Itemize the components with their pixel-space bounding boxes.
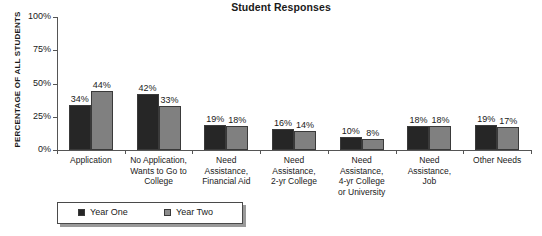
x-axis-category-label: NeedAssistance,4-yr Collegeor University (324, 155, 400, 197)
bar-value-label: 18% (407, 115, 429, 125)
bar-value-label: 8% (362, 128, 384, 138)
category-label-line: Need (188, 155, 264, 166)
y-axis-tick-label: 25% (33, 111, 51, 121)
x-axis-line (57, 150, 531, 151)
x-axis-tick-mark (531, 150, 532, 154)
bar-year-one (272, 129, 294, 150)
y-axis-tick-label: 100% (28, 11, 51, 21)
legend-swatch-year-one (78, 209, 85, 216)
x-axis-tick-mark (396, 150, 397, 154)
bar-value-label: 19% (204, 114, 226, 124)
category-label-line: Assistance, (188, 166, 264, 177)
legend-label-year-one: Year One (90, 207, 128, 217)
legend-item-year-one: Year One (78, 207, 128, 217)
x-axis-category-label: No Application,Wants to Go toCollege (121, 155, 197, 187)
bar-value-label: 42% (137, 83, 159, 93)
y-axis-tick-mark (53, 50, 57, 51)
x-axis-tick-mark (125, 150, 126, 154)
category-label-line: Need (324, 155, 400, 166)
bar-year-two (362, 139, 384, 150)
bar-value-label: 44% (91, 80, 113, 90)
plot-area: 0%25%50%75%100% 34%44%42%33%19%18%16%14%… (57, 17, 531, 150)
student-responses-bar-chart: Student Responses PERCENTAGE OF ALL STUD… (0, 0, 542, 236)
y-axis-tick-mark (53, 84, 57, 85)
y-axis-title: PERCENTAGE OF ALL STUDENTS (13, 5, 22, 155)
bar-value-label: 16% (272, 118, 294, 128)
bar-year-two (294, 131, 316, 150)
category-label-line: Application (53, 155, 129, 166)
category-label-line: 4-yr College (324, 176, 400, 187)
bar-group: 42%33% (137, 17, 181, 150)
x-axis-category-label: Application (53, 155, 129, 166)
bar-value-label: 19% (475, 114, 497, 124)
category-label-line: Assistance, (392, 166, 468, 177)
bar-year-one (407, 126, 429, 150)
legend-swatch-year-two (164, 209, 171, 216)
bar-year-one (475, 125, 497, 150)
x-axis-category-label: NeedAssistance,2-yr College (256, 155, 332, 187)
bar-value-label: 18% (429, 115, 451, 125)
category-label-line: Financial Aid (188, 176, 264, 187)
bar-group: 19%17% (475, 17, 519, 150)
legend-item-year-two: Year Two (164, 207, 213, 217)
bar-year-two (91, 91, 113, 150)
category-label-line: Assistance, (324, 166, 400, 177)
chart-title: Student Responses (0, 1, 542, 13)
y-axis-tick-label: 75% (33, 44, 51, 54)
y-axis-tick-mark (53, 117, 57, 118)
x-axis-category-label: NeedAssistance,Financial Aid (188, 155, 264, 187)
category-label-line: Other Needs (459, 155, 535, 166)
chart-legend: Year One Year Two (57, 202, 243, 224)
category-label-line: Job (392, 176, 468, 187)
category-label-line: No Application, (121, 155, 197, 166)
bar-year-two (159, 106, 181, 150)
category-label-line: Need (256, 155, 332, 166)
category-label-line: Assistance, (256, 166, 332, 177)
category-label-line: or University (324, 187, 400, 198)
bar-value-label: 18% (226, 115, 248, 125)
x-axis-tick-mark (463, 150, 464, 154)
bar-group: 19%18% (204, 17, 248, 150)
y-axis-line (57, 17, 58, 150)
y-axis-tick-mark (53, 17, 57, 18)
bar-year-two (429, 126, 451, 150)
y-axis-tick-label: 50% (33, 78, 51, 88)
bar-year-one (204, 125, 226, 150)
bar-year-two (497, 127, 519, 150)
legend-label-year-two: Year Two (176, 207, 213, 217)
x-axis-tick-mark (260, 150, 261, 154)
bar-value-label: 14% (294, 120, 316, 130)
bar-value-label: 10% (340, 126, 362, 136)
bar-year-one (137, 94, 159, 150)
bar-value-label: 33% (159, 95, 181, 105)
bar-group: 18%18% (407, 17, 451, 150)
category-label-line: College (121, 176, 197, 187)
x-axis-category-label: Other Needs (459, 155, 535, 166)
x-axis-tick-mark (57, 150, 58, 154)
category-label-line: 2-yr College (256, 176, 332, 187)
bar-group: 16%14% (272, 17, 316, 150)
bar-year-one (340, 137, 362, 150)
bar-year-two (226, 126, 248, 150)
x-axis-tick-mark (328, 150, 329, 154)
x-axis-category-label: NeedAssistance,Job (392, 155, 468, 187)
category-label-line: Need (392, 155, 468, 166)
bar-group: 34%44% (69, 17, 113, 150)
bar-year-one (69, 105, 91, 150)
bar-group: 10%8% (340, 17, 384, 150)
bar-value-label: 34% (69, 94, 91, 104)
category-label-line: Wants to Go to (121, 166, 197, 177)
x-axis-tick-mark (192, 150, 193, 154)
y-axis-tick-label: 0% (38, 144, 51, 154)
bar-value-label: 17% (497, 116, 519, 126)
